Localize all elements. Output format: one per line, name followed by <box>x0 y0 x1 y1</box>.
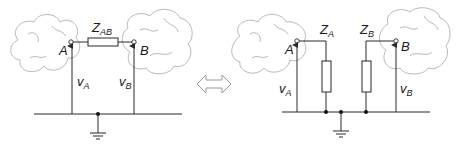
impedance-zab <box>88 38 118 46</box>
label-vb-right: vB <box>400 81 413 98</box>
label-za: ZA <box>319 22 334 39</box>
label-vb: vB <box>119 74 132 91</box>
ground-icon <box>90 133 106 139</box>
left-circuit: A B ZAB vA vB <box>11 9 192 139</box>
node-b <box>132 40 136 44</box>
label-node-b-right: B <box>401 39 410 54</box>
label-zab: ZAB <box>91 20 112 37</box>
impedance-zb <box>362 61 371 92</box>
label-node-a: A <box>58 43 68 58</box>
label-node-a-right: A <box>284 42 294 57</box>
label-zb: ZB <box>359 22 374 39</box>
node-b-right <box>394 39 398 43</box>
double-arrow-icon <box>197 75 231 93</box>
ground-icon-right <box>333 131 349 137</box>
impedance-za <box>322 61 331 92</box>
right-circuit: A B ZA ZB vA vB <box>232 8 450 137</box>
node-a-right <box>295 39 299 43</box>
node-a <box>69 40 73 44</box>
network-cloud-a-right <box>232 15 306 74</box>
label-node-b: B <box>140 43 149 58</box>
circuit-diagram: A B ZAB vA vB <box>0 0 458 153</box>
label-va-right: vA <box>279 81 292 98</box>
label-va: vA <box>77 74 90 91</box>
